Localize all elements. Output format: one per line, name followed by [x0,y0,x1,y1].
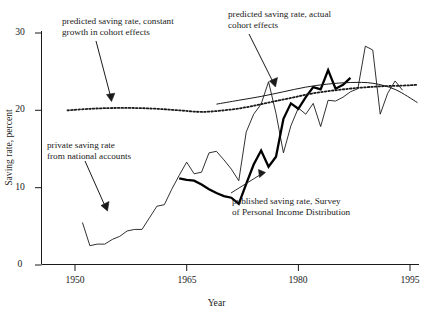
saving-rate-chart: 30 20 10 0 1950 1965 1980 1995 Year Savi… [0,0,433,320]
arrow-constant-growth [96,41,115,102]
arrow-actual-cohort [249,34,278,87]
series-line [68,85,418,112]
x-tick-label-1995: 1995 [390,274,430,285]
x-tick-label-1980: 1980 [278,274,318,285]
x-tick-label-1950: 1950 [55,274,95,285]
annotation-constant-growth: predicted saving rate, constant growth i… [62,16,174,38]
series-line [179,70,350,204]
x-tick-label-1965: 1965 [167,274,207,285]
annotation-arrows [85,34,278,211]
y-tick-label-0: 0 [8,258,32,269]
y-tick-label-30: 30 [8,26,32,37]
annotation-private-saving: private saving rate from national accoun… [47,140,131,162]
x-axis-title: Year [0,297,433,308]
arrow-private-saving [85,161,109,211]
y-axis-title: Saving rate, percent [3,88,14,208]
annotation-actual-cohort: predicted saving rate, actual cohort eff… [228,9,331,31]
annotation-published-survey: published saving rate, Survey of Persona… [232,196,350,218]
